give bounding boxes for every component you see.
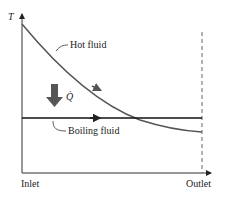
boiling-fluid-label: Boiling fluid: [68, 125, 119, 136]
heat-transfer-label: Q̇: [66, 91, 74, 102]
inlet-label: Inlet: [21, 178, 40, 189]
y-axis-label: T: [8, 11, 15, 22]
heat-exchanger-diagram: Hot fluid Boiling fluid Q̇ T Inlet Outle…: [0, 0, 227, 198]
heat-transfer-arrow-icon: [46, 84, 63, 107]
hot-fluid-curve: [22, 24, 202, 132]
outlet-label: Outlet: [186, 178, 211, 189]
hot-fluid-direction-arrow: [92, 86, 98, 89]
hot-fluid-leader: [56, 45, 68, 51]
hot-fluid-label: Hot fluid: [70, 39, 106, 50]
boiling-fluid-leader: [53, 121, 66, 131]
